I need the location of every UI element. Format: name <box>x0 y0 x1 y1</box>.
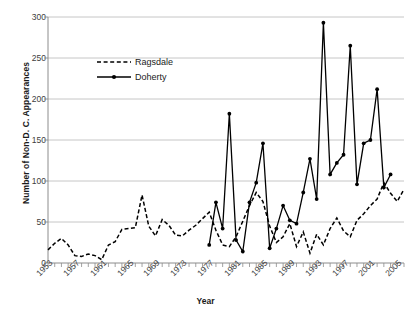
x-tick-label: 1993 <box>303 258 323 278</box>
legend-swatch-dashed <box>96 57 132 67</box>
legend-label-doherty: Doherty <box>135 72 167 82</box>
chart-container: Number of Non-D. C. Appearances 05010015… <box>0 0 411 318</box>
x-tick-label: 1965 <box>115 258 135 278</box>
x-axis-tick-labels: 1953195719611965196919731977198119851989… <box>0 0 411 318</box>
legend-swatch-solid-marker <box>96 72 132 82</box>
x-tick-label: 1957 <box>61 258 81 278</box>
legend-item-doherty: Doherty <box>96 69 173 84</box>
legend: Ragsdale Doherty <box>96 54 173 84</box>
x-tick-label: 1953 <box>34 258 54 278</box>
x-tick-label: 1973 <box>168 258 188 278</box>
legend-label-ragsdale: Ragsdale <box>135 57 173 67</box>
x-tick-label: 2005 <box>383 258 403 278</box>
x-tick-label: 1981 <box>222 258 242 278</box>
x-tick-label: 1985 <box>249 258 269 278</box>
x-tick-label: 1961 <box>88 258 108 278</box>
x-tick-label: 1977 <box>195 258 215 278</box>
x-tick-label: 1989 <box>276 258 296 278</box>
legend-item-ragsdale: Ragsdale <box>96 54 173 69</box>
x-axis-title: Year <box>0 296 411 306</box>
x-tick-label: 1969 <box>141 258 161 278</box>
x-tick-label: 2001 <box>356 258 376 278</box>
x-tick-label: 1997 <box>330 258 350 278</box>
